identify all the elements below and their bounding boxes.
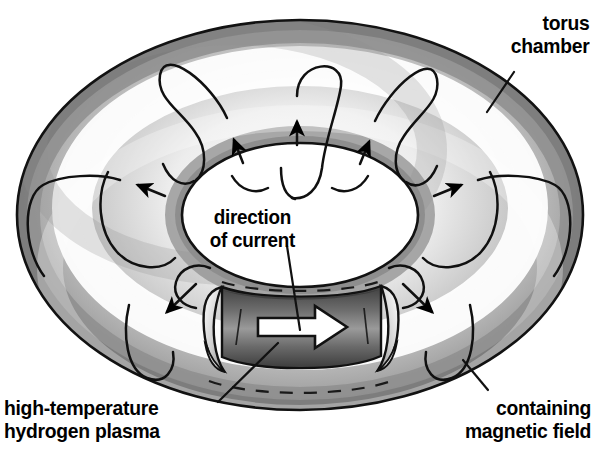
label-high-temperature-hydrogen-plasma: high-temperature hydrogen plasma	[4, 396, 160, 442]
label-containing-magnetic-field: containing magnetic field	[465, 396, 591, 442]
diagram-canvas: torus chamber direction of current high-…	[0, 0, 597, 471]
plasma-cutaway	[204, 286, 399, 372]
label-torus-chamber: torus chamber	[510, 11, 589, 57]
label-direction-of-current: direction of current	[210, 206, 295, 251]
